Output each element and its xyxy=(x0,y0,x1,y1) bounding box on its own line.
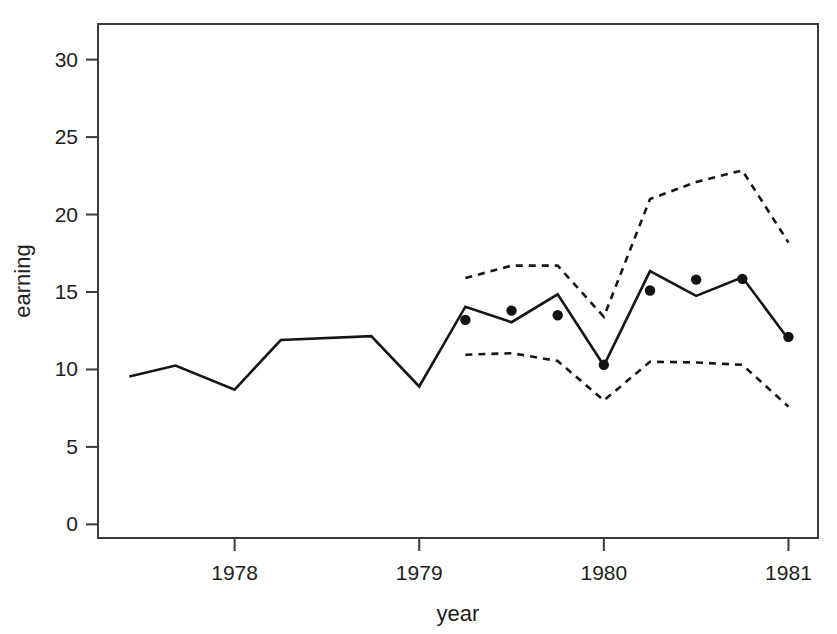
y-tick-label: 30 xyxy=(55,48,78,71)
x-tick-label: 1978 xyxy=(211,561,258,584)
data-point-observed xyxy=(737,274,747,284)
data-point-observed xyxy=(645,285,655,295)
y-tick-label: 0 xyxy=(66,512,78,535)
data-point-observed xyxy=(552,310,562,320)
data-point-observed xyxy=(460,315,470,325)
y-tick-label: 25 xyxy=(55,125,78,148)
chart-figure: 051015202530 1978197919801981 earning ye… xyxy=(0,0,837,634)
data-point-observed xyxy=(599,360,609,370)
chart-plot-svg: 051015202530 1978197919801981 earning ye… xyxy=(0,0,837,634)
y-axis-title: earning xyxy=(10,244,35,317)
y-tick-label: 15 xyxy=(55,280,78,303)
x-tick-label: 1979 xyxy=(396,561,443,584)
data-point-observed xyxy=(691,274,701,284)
data-point-observed xyxy=(783,332,793,342)
y-tick-label: 5 xyxy=(66,435,78,458)
data-point-observed xyxy=(506,305,516,315)
y-tick-label: 20 xyxy=(55,203,78,226)
x-tick-label: 1980 xyxy=(580,561,627,584)
x-axis-title: year xyxy=(437,601,480,626)
x-tick-label: 1981 xyxy=(765,561,812,584)
y-tick-label: 10 xyxy=(55,357,78,380)
